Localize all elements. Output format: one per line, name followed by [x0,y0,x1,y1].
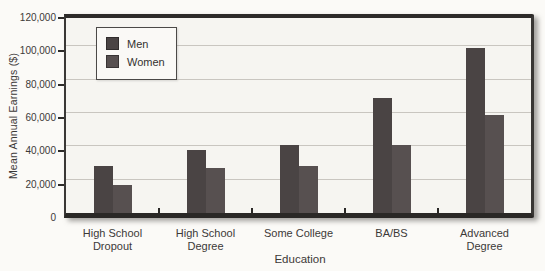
y-tick-label: 100,000 [0,45,56,56]
bar-men-2 [187,150,206,213]
gridline-60000 [66,112,531,113]
bar-women-4 [392,145,411,213]
bar-men-5 [466,48,485,213]
y-tick-label: 60,000 [0,112,56,123]
y-tick-label: 20,000 [0,179,56,190]
legend-swatch-men [106,37,119,50]
bar-men-1 [94,166,113,213]
bar-women-5 [485,115,504,213]
y-tick-label: 80,000 [0,79,56,90]
bar-men-3 [280,145,299,213]
x-axis-labels: High School DropoutHigh School DegreeSom… [66,227,531,255]
x-tick-mark [344,208,346,213]
legend-label: Men [127,38,148,50]
y-tick-label: 120,000 [0,12,56,23]
legend-item-women: Women [106,55,170,68]
plot-area: MenWomen [64,14,534,218]
y-tick-label: 0 [0,212,56,223]
legend-label: Women [127,56,165,68]
legend-item-men: Men [106,37,170,50]
bar-chart-figure: Mean Annual Earnings ($) 020,00040,00060… [0,0,545,271]
x-tick-mark [251,208,253,213]
gridline-40000 [66,145,531,146]
bar-women-3 [299,166,318,213]
y-tick-label: 40,000 [0,145,56,156]
bar-men-4 [373,98,392,213]
legend: MenWomen [96,27,177,80]
legend-swatch-women [106,55,119,68]
x-axis-title: Education [240,253,360,265]
bar-women-2 [206,168,225,213]
x-tick-mark [437,208,439,213]
x-tick-mark [158,208,160,213]
x-category-label: Advanced Degree [430,227,540,252]
bar-women-1 [113,185,132,213]
